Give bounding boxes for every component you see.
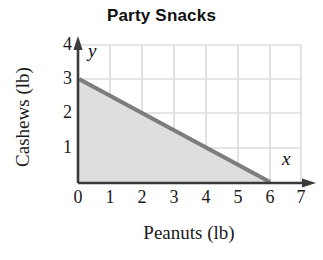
x-tick-label-1: 1 — [101, 187, 119, 208]
x-tick-label-5: 5 — [229, 187, 247, 208]
x-tick-label-2: 2 — [133, 187, 151, 208]
x-axis-variable-label: x — [282, 148, 290, 170]
x-tick-label-3: 3 — [165, 187, 183, 208]
y-tick-label-2: 2 — [56, 102, 72, 123]
x-tick-label-7: 7 — [292, 187, 310, 208]
chart-figure: Party Snacks Cashews (lb) Peanuts (lb) — [0, 0, 323, 260]
x-tick-label-6: 6 — [261, 187, 279, 208]
x-tick-label-4: 4 — [197, 187, 215, 208]
x-tick-label-0: 0 — [69, 187, 87, 208]
y-tick-label-3: 3 — [56, 68, 72, 89]
y-tick-label-4: 4 — [56, 34, 72, 55]
y-axis-variable-label: y — [88, 40, 96, 62]
plot-area — [0, 0, 323, 260]
y-tick-label-1: 1 — [56, 137, 72, 158]
